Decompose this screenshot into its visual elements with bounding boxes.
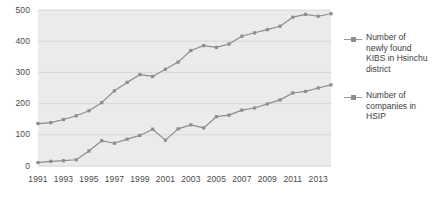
data-point-marker (189, 123, 192, 126)
x-axis-tick-label: 1997 (100, 174, 128, 184)
legend-line-marker-icon (344, 34, 362, 44)
data-point-marker (164, 139, 167, 142)
data-point-marker (253, 31, 256, 34)
data-point-marker (75, 158, 78, 161)
data-point-marker (151, 128, 154, 131)
data-point-marker (215, 115, 218, 118)
data-point-marker (36, 122, 39, 125)
data-point-marker (227, 114, 230, 117)
data-point-marker (126, 81, 129, 84)
data-point-marker (202, 126, 205, 129)
x-axis-tick-label: 2007 (228, 174, 256, 184)
data-point-marker (253, 106, 256, 109)
x-axis-tick-label: 1993 (49, 174, 77, 184)
line-chart: 0100200300400500 19911993199519971999200… (0, 0, 440, 200)
data-point-marker (329, 83, 332, 86)
y-axis-tick-label: 300 (4, 67, 30, 77)
data-point-marker (138, 73, 141, 76)
data-point-marker (317, 15, 320, 18)
data-point-marker (304, 90, 307, 93)
data-point-marker (304, 13, 307, 16)
data-point-marker (278, 98, 281, 101)
data-point-marker (36, 161, 39, 164)
legend-item-label: Number of newly found KIBS in Hsinchu di… (366, 32, 427, 74)
x-axis-tick-label: 2003 (177, 174, 205, 184)
data-point-marker (126, 138, 129, 141)
data-point-marker (291, 91, 294, 94)
data-point-marker (240, 35, 243, 38)
data-point-marker (49, 121, 52, 124)
data-point-marker (329, 12, 332, 15)
data-point-marker (75, 114, 78, 117)
x-axis-tick-label: 1999 (126, 174, 154, 184)
data-point-marker (113, 89, 116, 92)
y-axis-tick-label: 0 (4, 161, 30, 171)
series-lines (36, 12, 332, 164)
x-axis-tick-label: 2001 (151, 174, 179, 184)
data-point-marker (100, 139, 103, 142)
data-point-marker (291, 16, 294, 19)
data-point-marker (87, 109, 90, 112)
data-point-marker (113, 142, 116, 145)
data-point-marker (49, 160, 52, 163)
y-axis-tick-label: 400 (4, 36, 30, 46)
data-point-marker (100, 101, 103, 104)
data-point-marker (266, 28, 269, 31)
data-point-marker (240, 109, 243, 112)
data-point-marker (278, 25, 281, 28)
legend-item-kibs[interactable]: Number of newly found KIBS in Hsinchu di… (344, 32, 440, 74)
legend-item-hsip[interactable]: Number of companies in HSIP (344, 90, 440, 122)
gridlines (38, 10, 331, 166)
x-axis-tick-label: 2005 (202, 174, 230, 184)
x-axis-tick-label: 1995 (75, 174, 103, 184)
data-point-marker (266, 102, 269, 105)
legend-line-marker-icon (344, 92, 362, 102)
data-point-marker (317, 86, 320, 89)
data-point-marker (177, 127, 180, 130)
data-point-marker (215, 46, 218, 49)
x-axis-tick-label: 1991 (24, 174, 52, 184)
data-point-marker (227, 42, 230, 45)
x-axis-tick-label: 2011 (279, 174, 307, 184)
data-point-marker (62, 159, 65, 162)
data-point-marker (189, 49, 192, 52)
data-point-marker (138, 134, 141, 137)
data-point-marker (177, 61, 180, 64)
y-axis-tick-label: 500 (4, 5, 30, 15)
legend-item-label: Number of companies in HSIP (366, 90, 416, 122)
data-point-marker (164, 68, 167, 71)
series-line-1 (38, 85, 331, 163)
data-point-marker (62, 118, 65, 121)
y-axis-tick-label: 200 (4, 98, 30, 108)
chart-legend: Number of newly found KIBS in Hsinchu di… (344, 32, 440, 138)
x-axis-tick-label: 2013 (304, 174, 332, 184)
data-point-marker (202, 44, 205, 47)
x-axis-tick-label: 2009 (253, 174, 281, 184)
data-point-marker (151, 75, 154, 78)
y-axis-tick-label: 100 (4, 129, 30, 139)
series-line-0 (38, 14, 331, 124)
data-point-marker (87, 149, 90, 152)
